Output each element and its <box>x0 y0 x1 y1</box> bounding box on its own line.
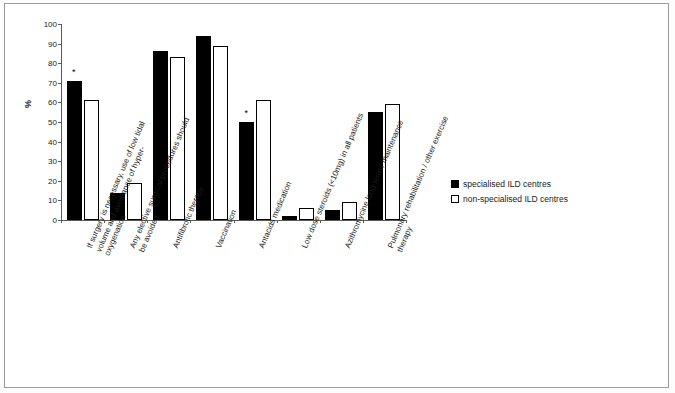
x-axis-tick-mark <box>363 220 364 223</box>
significance-marker: * <box>72 68 76 77</box>
bar <box>67 81 82 220</box>
y-axis-tick-mark <box>58 63 61 64</box>
legend-label: specialised ILD centres <box>463 179 551 189</box>
significance-marker: * <box>245 109 249 118</box>
x-axis-tick-mark <box>277 220 278 223</box>
chart-frame: % 0102030405060708090100 ** If surgery i… <box>4 3 669 388</box>
legend-label: non-specialised ILD centres <box>463 194 568 204</box>
x-axis-tick-mark <box>234 220 235 223</box>
x-axis-tick-mark <box>61 220 62 223</box>
x-axis-tick-mark <box>147 220 148 223</box>
bar <box>325 210 340 220</box>
y-axis-line <box>61 24 62 220</box>
legend-swatch <box>451 180 459 188</box>
bar <box>84 100 99 220</box>
y-axis-tick-mark <box>58 44 61 45</box>
y-axis-tick-mark <box>58 102 61 103</box>
y-axis-tick-mark <box>58 142 61 143</box>
legend-item: specialised ILD centres <box>451 179 568 189</box>
x-axis-tick-mark <box>406 220 407 223</box>
y-axis-tick-mark <box>58 181 61 182</box>
legend-swatch <box>451 195 459 203</box>
legend: specialised ILD centresnon-specialised I… <box>451 179 568 209</box>
bar <box>282 216 297 220</box>
y-axis-tick-mark <box>58 161 61 162</box>
x-axis-tick-mark <box>190 220 191 223</box>
y-axis-tick-mark <box>58 122 61 123</box>
chart-page: % 0102030405060708090100 ** If surgery i… <box>0 0 675 393</box>
y-axis-tick-mark <box>58 24 61 25</box>
x-axis-tick-mark <box>104 220 105 223</box>
y-axis-label: % <box>23 100 33 108</box>
legend-item: non-specialised ILD centres <box>451 194 568 204</box>
y-axis-tick-mark <box>58 200 61 201</box>
y-axis-tick-mark <box>58 83 61 84</box>
x-axis-tick-mark <box>320 220 321 223</box>
plot-area: 0102030405060708090100 ** If surgery is … <box>61 24 406 220</box>
bar-group: * <box>67 24 99 220</box>
